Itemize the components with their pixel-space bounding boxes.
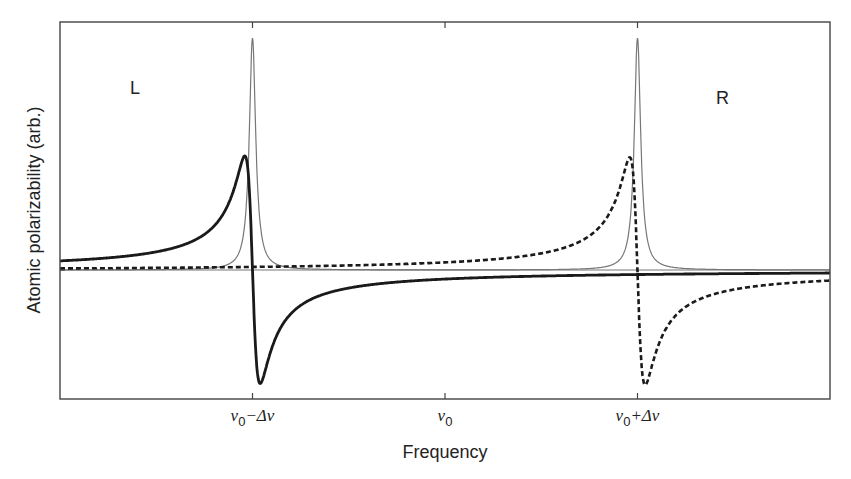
absorption-curve bbox=[60, 38, 830, 270]
plot-frame bbox=[60, 22, 830, 399]
x-axis-ticks bbox=[253, 22, 638, 399]
x-axis-tick-labels: ν0−Δνν0ν0+Δν bbox=[231, 406, 660, 429]
x-tick-label: ν0+Δν bbox=[616, 406, 660, 429]
annotation-l: L bbox=[130, 78, 140, 98]
chart: ν0−Δνν0ν0+Δν L R Frequency Atomic polari… bbox=[0, 0, 851, 479]
x-tick-label: ν0 bbox=[438, 406, 453, 429]
y-axis-label: Atomic polarizability (arb.) bbox=[24, 106, 44, 313]
plot-curves bbox=[60, 38, 830, 385]
absorption-curve bbox=[60, 38, 830, 270]
annotation-r: R bbox=[716, 88, 729, 108]
dispersion-curve-r bbox=[60, 157, 830, 385]
x-axis-label: Frequency bbox=[402, 442, 487, 462]
x-tick-label: ν0−Δν bbox=[231, 406, 275, 429]
